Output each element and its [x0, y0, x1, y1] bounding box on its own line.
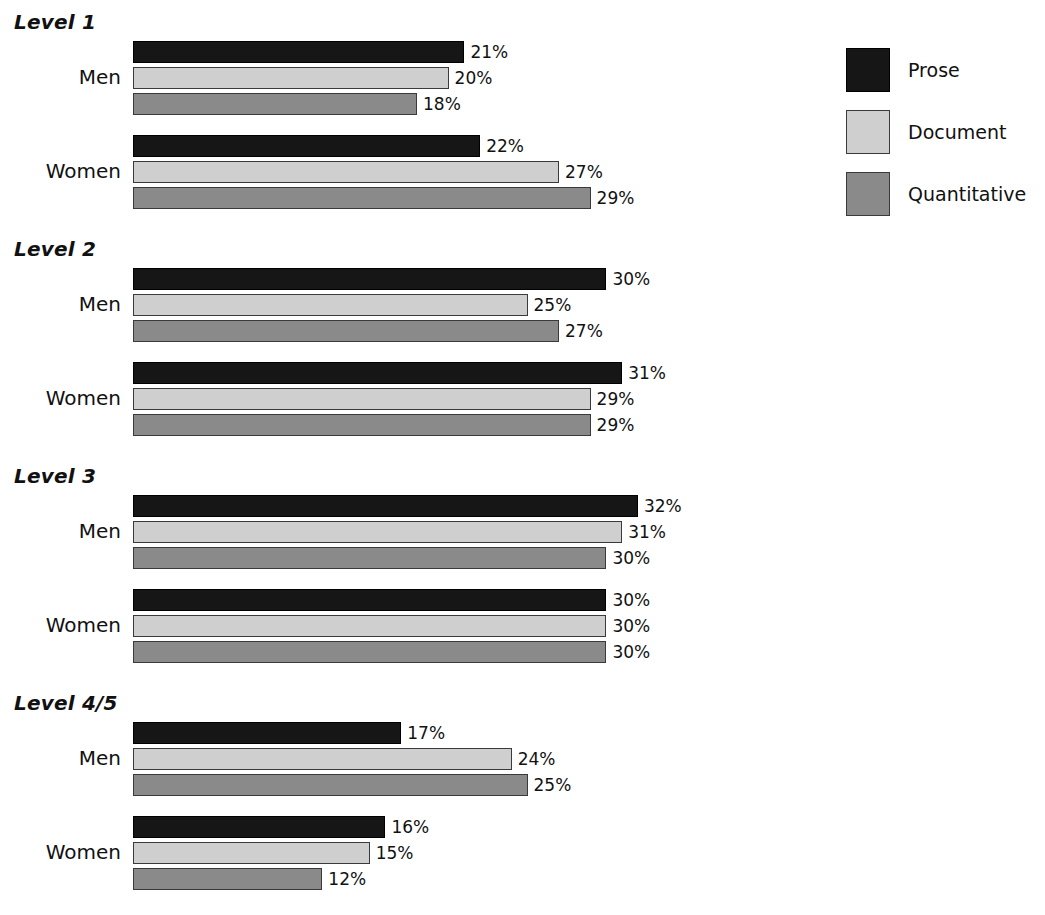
level-heading: Level 1	[14, 10, 96, 34]
bar-row: 30%	[133, 268, 993, 290]
bar-document	[133, 748, 512, 770]
group-label-women: Women	[0, 159, 121, 183]
bar-document	[133, 67, 449, 89]
bar-value-label: 29%	[591, 414, 635, 436]
group-label-men: Men	[0, 519, 121, 543]
bar-row: 32%	[133, 495, 993, 517]
bar-row: 30%	[133, 589, 993, 611]
bar-quantitative	[133, 868, 322, 890]
legend-label: Prose	[908, 48, 960, 92]
bar-value-label: 30%	[606, 615, 650, 637]
group-label-women: Women	[0, 386, 121, 410]
bar-prose	[133, 268, 606, 290]
bar-chart: Level 1Men21%20%18%Women22%27%29%Level 2…	[0, 0, 1045, 915]
bar-value-label: 31%	[622, 362, 666, 384]
bar-value-label: 12%	[322, 868, 366, 890]
bar-row: 29%	[133, 388, 993, 410]
group-label-men: Men	[0, 65, 121, 89]
bar-value-label: 24%	[512, 748, 556, 770]
bar-document	[133, 294, 528, 316]
bar-document	[133, 521, 622, 543]
bar-value-label: 32%	[638, 495, 682, 517]
group-label-men: Men	[0, 746, 121, 770]
bar-value-label: 27%	[559, 320, 603, 342]
bar-value-label: 18%	[417, 93, 461, 115]
bar-value-label: 16%	[385, 816, 429, 838]
bar-quantitative	[133, 414, 591, 436]
bar-prose	[133, 816, 385, 838]
bar-prose	[133, 722, 401, 744]
bar-quantitative	[133, 774, 528, 796]
bar-value-label: 17%	[401, 722, 445, 744]
bar-value-label: 15%	[370, 842, 414, 864]
legend-item-document[interactable]: Document	[846, 110, 1036, 154]
bar-value-label: 25%	[528, 774, 572, 796]
bar-quantitative	[133, 187, 591, 209]
bar-quantitative	[133, 93, 417, 115]
bar-row: 16%	[133, 816, 993, 838]
bar-prose	[133, 589, 606, 611]
bar-row: 30%	[133, 615, 993, 637]
bar-row: 17%	[133, 722, 993, 744]
bar-quantitative	[133, 320, 559, 342]
bar-value-label: 22%	[480, 135, 524, 157]
bar-value-label: 31%	[622, 521, 666, 543]
legend-swatch-quantitative-icon	[846, 172, 890, 216]
legend-swatch-document-icon	[846, 110, 890, 154]
bar-document	[133, 615, 606, 637]
group-label-men: Men	[0, 292, 121, 316]
bar-prose	[133, 135, 480, 157]
bar-row: 25%	[133, 294, 993, 316]
bar-value-label: 29%	[591, 388, 635, 410]
bar-row: 30%	[133, 547, 993, 569]
legend-label: Document	[908, 110, 1006, 154]
group-label-women: Women	[0, 840, 121, 864]
bar-row: 25%	[133, 774, 993, 796]
level-heading: Level 3	[14, 464, 96, 488]
legend-label: Quantitative	[908, 172, 1026, 216]
bar-document	[133, 388, 591, 410]
group-label-women: Women	[0, 613, 121, 637]
bar-row: 31%	[133, 362, 993, 384]
bar-row: 12%	[133, 868, 993, 890]
bar-value-label: 30%	[606, 547, 650, 569]
legend-swatch-prose-icon	[846, 48, 890, 92]
bar-value-label: 25%	[528, 294, 572, 316]
bar-quantitative	[133, 641, 606, 663]
bar-row: 27%	[133, 320, 993, 342]
bar-row: 30%	[133, 641, 993, 663]
bar-value-label: 30%	[606, 268, 650, 290]
bar-value-label: 30%	[606, 641, 650, 663]
bar-row: 29%	[133, 414, 993, 436]
bar-prose	[133, 362, 622, 384]
bar-value-label: 29%	[591, 187, 635, 209]
bar-row: 24%	[133, 748, 993, 770]
legend-item-prose[interactable]: Prose	[846, 48, 1036, 92]
bar-row: 31%	[133, 521, 993, 543]
bar-value-label: 27%	[559, 161, 603, 183]
bar-value-label: 20%	[449, 67, 493, 89]
bar-row: 15%	[133, 842, 993, 864]
legend-item-quantitative[interactable]: Quantitative	[846, 172, 1036, 216]
bar-prose	[133, 41, 464, 63]
bar-value-label: 21%	[464, 41, 508, 63]
bar-prose	[133, 495, 638, 517]
bar-document	[133, 842, 370, 864]
bar-document	[133, 161, 559, 183]
level-heading: Level 2	[14, 237, 96, 261]
bar-quantitative	[133, 547, 606, 569]
bar-value-label: 30%	[606, 589, 650, 611]
level-heading: Level 4/5	[14, 691, 118, 715]
